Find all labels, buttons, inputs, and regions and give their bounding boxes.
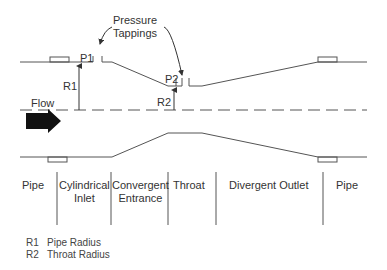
r1-label: R1 <box>63 80 77 93</box>
flange-top-left <box>50 57 69 62</box>
section-divergent-outlet: Divergent Outlet <box>229 179 308 192</box>
legend-r1: R1Pipe Radius <box>26 237 101 249</box>
section-pipe-outlet: Pipe <box>336 179 358 192</box>
flange-bottom-left <box>48 157 67 162</box>
p1-label: P1 <box>80 52 93 65</box>
legend-r2: R2Throat Radius <box>26 249 110 261</box>
tapping-arrow-p1 <box>100 27 112 44</box>
flange-top-right <box>318 57 337 62</box>
r2-label: R2 <box>157 96 171 109</box>
p2-label: P2 <box>165 73 178 86</box>
section-convergent-entrance: Convergent Entrance <box>112 179 169 205</box>
flow-label: Flow <box>31 97 54 110</box>
tapping-arrow-p2 <box>164 27 182 75</box>
section-throat: Throat <box>173 179 205 192</box>
pressure-tappings-label: Pressure Tappings <box>113 14 157 40</box>
flow-arrow-icon <box>26 109 61 133</box>
venturi-diagram <box>0 0 387 270</box>
section-pipe-inlet: Pipe <box>22 179 44 192</box>
bottom-wall <box>20 133 367 157</box>
section-cylindrical-inlet: Cylindrical Inlet <box>59 179 110 205</box>
flange-bottom-right <box>318 157 337 162</box>
